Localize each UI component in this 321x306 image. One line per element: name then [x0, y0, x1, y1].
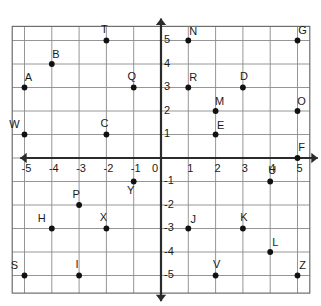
point-label: T: [101, 23, 108, 35]
point-label: A: [25, 71, 33, 83]
point-label: V: [213, 258, 221, 270]
y-tick-label: -2: [164, 198, 174, 210]
point-label: K: [240, 211, 248, 223]
y-tick-label: -5: [164, 268, 174, 280]
point-label: O: [297, 95, 306, 107]
point-label: P: [72, 188, 79, 200]
point-label: G: [298, 24, 307, 36]
point-label: R: [189, 71, 197, 83]
point-label: N: [189, 25, 197, 37]
point-marker: [22, 132, 28, 138]
point-label: E: [217, 119, 224, 131]
point-marker: [49, 226, 55, 232]
point-label: W: [9, 118, 20, 130]
y-tick-label: 5: [164, 33, 170, 45]
point-label: Z: [299, 259, 306, 271]
point-label: U: [268, 164, 276, 176]
point-label: H: [38, 212, 46, 224]
point-marker: [185, 38, 191, 44]
point-marker: [22, 273, 28, 279]
x-tick-label: -1: [131, 162, 141, 174]
point-label: X: [100, 211, 108, 223]
y-tick-label: -1: [164, 174, 174, 186]
x-tick-label: -5: [22, 162, 32, 174]
y-tick-label: 4: [164, 57, 170, 69]
point-marker: [213, 273, 219, 279]
x-tick-label: -3: [76, 162, 86, 174]
x-tick-label: 3: [242, 162, 248, 174]
x-tick-label: -4: [49, 162, 59, 174]
x-tick-label: 1: [187, 162, 193, 174]
y-tick-label: 1: [164, 127, 170, 139]
point-marker: [185, 226, 191, 232]
point-label: F: [298, 141, 305, 153]
point-label: I: [76, 258, 79, 270]
point-label: L: [272, 236, 278, 248]
point-marker: [22, 85, 28, 91]
point-label: J: [191, 213, 197, 225]
point-label: Y: [127, 184, 135, 196]
y-tick-label: 3: [164, 80, 170, 92]
y-tick-label: -4: [164, 245, 174, 257]
point-marker: [267, 179, 273, 185]
x-tick-label: 5: [296, 162, 302, 174]
point-marker: [131, 85, 137, 91]
x-tick-label: -2: [104, 162, 114, 174]
point-marker: [267, 249, 273, 255]
point-marker: [104, 226, 110, 232]
point-marker: [104, 38, 110, 44]
point-marker: [213, 132, 219, 138]
x-tick-label: 2: [215, 162, 221, 174]
point-marker: [295, 273, 301, 279]
point-marker: [295, 155, 301, 161]
point-marker: [76, 273, 82, 279]
point-label: D: [240, 70, 248, 82]
point-label: M: [215, 95, 224, 107]
point-label: C: [100, 117, 108, 129]
point-marker: [185, 85, 191, 91]
point-marker: [76, 202, 82, 208]
point-marker: [49, 61, 55, 67]
point-marker: [295, 108, 301, 114]
point-label: S: [11, 259, 18, 271]
point-marker: [240, 226, 246, 232]
origin-label: 0: [152, 162, 158, 174]
point-marker: [240, 85, 246, 91]
point-marker: [213, 108, 219, 114]
coordinate-plane: -5-4-3-2-11234554321-1-2-3-4-50 ABCDEFGH…: [0, 0, 321, 306]
point-label: B: [52, 48, 59, 60]
point-label: Q: [127, 70, 136, 82]
point-marker: [104, 132, 110, 138]
point-marker: [295, 38, 301, 44]
y-tick-label: 2: [164, 104, 170, 116]
y-tick-label: -3: [164, 221, 174, 233]
